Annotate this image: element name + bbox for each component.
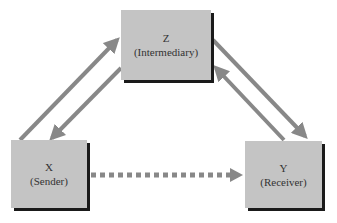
node-z-intermediary: Z (Intermediary) — [121, 10, 211, 80]
node-y-letter: Y — [280, 161, 288, 175]
node-x-role: (Sender) — [30, 174, 68, 188]
node-y-receiver: Y (Receiver) — [245, 141, 322, 208]
node-z-role: (Intermediary) — [134, 45, 198, 59]
node-x-sender: X (Sender) — [11, 140, 87, 208]
node-x-letter: X — [45, 160, 53, 174]
arrow-z-to-y — [213, 40, 305, 136]
arrowhead-x-to-y — [230, 168, 243, 182]
arrow-x-to-z — [20, 40, 117, 140]
arrow-z-to-x — [52, 68, 121, 138]
node-y-role: (Receiver) — [260, 175, 306, 189]
node-z-letter: Z — [163, 31, 170, 45]
